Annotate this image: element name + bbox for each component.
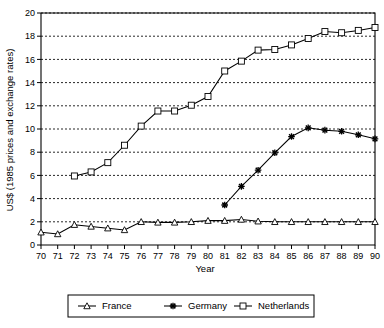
- x-tick-label: 74: [103, 251, 113, 261]
- x-tick-label: 89: [353, 251, 363, 261]
- marker-square: [305, 36, 311, 42]
- marker-square: [238, 58, 244, 64]
- x-tick-label: 76: [136, 251, 146, 261]
- x-tick-label: 77: [153, 251, 163, 261]
- marker-square: [322, 29, 328, 35]
- marker-asterisk: [372, 136, 379, 143]
- marker-asterisk: [255, 167, 262, 174]
- x-tick-label: 87: [320, 251, 330, 261]
- marker-square: [372, 25, 378, 31]
- marker-square: [105, 160, 111, 166]
- marker-asterisk: [170, 303, 177, 310]
- marker-asterisk: [272, 149, 279, 156]
- marker-square: [88, 169, 94, 175]
- x-tick-label: 80: [203, 251, 213, 261]
- series-line: [225, 128, 375, 205]
- x-tick-label: 85: [286, 251, 296, 261]
- x-axis-label: Year: [195, 263, 214, 274]
- marker-asterisk: [288, 133, 295, 140]
- marker-square: [155, 108, 161, 114]
- marker-asterisk: [305, 125, 312, 132]
- gridlines: [41, 13, 375, 222]
- x-tick-label: 84: [270, 251, 280, 261]
- series-netherlands: [71, 25, 378, 179]
- y-tick-label: 6: [30, 171, 35, 181]
- legend-label: Netherlands: [258, 300, 309, 311]
- data-series: [38, 25, 379, 237]
- series-line: [74, 28, 375, 176]
- y-axis-ticks: 02468101214161820: [25, 8, 41, 250]
- x-tick-label: 73: [86, 251, 96, 261]
- y-tick-label: 14: [25, 78, 35, 88]
- x-tick-label: 90: [370, 251, 380, 261]
- marker-asterisk: [355, 132, 362, 139]
- legend-label: Germany: [188, 300, 227, 311]
- marker-square: [355, 27, 361, 33]
- marker-asterisk: [338, 128, 345, 135]
- x-tick-label: 70: [36, 251, 46, 261]
- marker-square: [240, 303, 246, 309]
- marker-square: [339, 30, 345, 36]
- y-tick-label: 8: [30, 147, 35, 157]
- x-axis-ticks: 7071727374757677787980818283848586878889…: [36, 245, 380, 261]
- y-tick-label: 10: [25, 124, 35, 134]
- x-tick-label: 82: [236, 251, 246, 261]
- y-tick-label: 16: [25, 55, 35, 65]
- marker-square: [122, 142, 128, 148]
- marker-asterisk: [322, 127, 329, 134]
- x-tick-label: 88: [337, 251, 347, 261]
- y-tick-label: 12: [25, 101, 35, 111]
- legend-label: France: [102, 300, 132, 311]
- marker-square: [138, 123, 144, 129]
- marker-square: [222, 68, 228, 74]
- x-tick-label: 81: [220, 251, 230, 261]
- x-tick-label: 78: [170, 251, 180, 261]
- x-tick-label: 71: [53, 251, 63, 261]
- marker-square: [172, 108, 178, 114]
- series-germany: [221, 125, 378, 209]
- y-tick-label: 18: [25, 31, 35, 41]
- x-tick-label: 75: [119, 251, 129, 261]
- marker-square: [272, 47, 278, 53]
- line-chart: 02468101214161820 7071727374757677787980…: [0, 0, 384, 328]
- chart-figure: 02468101214161820 7071727374757677787980…: [0, 0, 384, 328]
- marker-square: [255, 47, 261, 53]
- x-tick-label: 72: [69, 251, 79, 261]
- y-tick-label: 20: [25, 8, 35, 18]
- marker-square: [205, 94, 211, 100]
- x-tick-label: 83: [253, 251, 263, 261]
- y-tick-label: 4: [30, 194, 35, 204]
- y-tick-label: 2: [30, 217, 35, 227]
- y-axis-label: US$ (1985 prices and exchange rates): [4, 49, 15, 212]
- marker-asterisk: [238, 183, 245, 190]
- marker-square: [188, 102, 194, 108]
- x-tick-label: 79: [186, 251, 196, 261]
- marker-square: [71, 173, 77, 179]
- x-tick-label: 86: [303, 251, 313, 261]
- marker-square: [289, 42, 295, 48]
- chart-legend: FranceGermanyNetherlands: [68, 295, 314, 317]
- marker-asterisk: [221, 202, 228, 209]
- y-tick-label: 0: [30, 240, 35, 250]
- series-france: [38, 216, 378, 236]
